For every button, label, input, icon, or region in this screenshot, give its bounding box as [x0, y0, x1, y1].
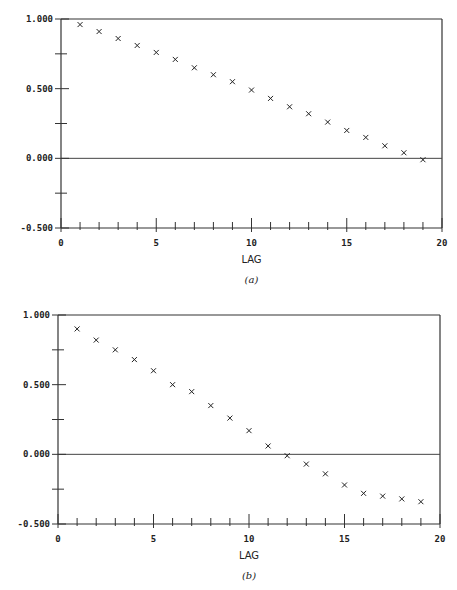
- data-point-x-marker: [344, 128, 349, 133]
- data-point-x-marker: [192, 65, 197, 70]
- data-point-x-marker: [154, 50, 159, 55]
- data-point-x-marker: [342, 482, 347, 487]
- data-point-x-marker: [189, 389, 194, 394]
- x-tick-label: 10: [244, 534, 255, 544]
- x-tick-label: 20: [437, 238, 448, 248]
- chart-canvas: 1.0000.5000.000-0.50005101520LAG(a) 1.00…: [0, 0, 457, 590]
- x-tick-label: 10: [246, 238, 257, 248]
- y-tick-label: 0.000: [23, 449, 50, 459]
- data-point-x-marker: [380, 494, 385, 499]
- data-point-x-marker: [247, 428, 252, 433]
- data-point-x-marker: [132, 357, 137, 362]
- acf-chart-b: 1.0000.5000.000-0.50005101520LAG(b): [17, 310, 445, 581]
- data-point-x-marker: [94, 338, 99, 343]
- data-point-x-marker: [401, 150, 406, 155]
- figure-caption: (b): [242, 570, 256, 581]
- y-tick-label: -0.500: [17, 519, 50, 529]
- data-point-x-marker: [173, 57, 178, 62]
- data-point-x-marker: [382, 143, 387, 148]
- data-point-x-marker: [151, 368, 156, 373]
- data-point-x-marker: [113, 347, 118, 352]
- x-tick-label: 15: [341, 238, 352, 248]
- data-point-x-marker: [75, 326, 80, 331]
- x-tick-label: 5: [154, 238, 159, 248]
- y-tick-label: 1.000: [26, 14, 53, 24]
- data-point-x-marker: [361, 491, 366, 496]
- data-point-x-marker: [78, 22, 83, 27]
- data-point-x-marker: [249, 88, 254, 93]
- data-point-x-marker: [325, 120, 330, 125]
- x-tick-label: 5: [151, 534, 156, 544]
- x-tick-label: 0: [58, 238, 63, 248]
- data-point-x-marker: [116, 36, 121, 41]
- data-point-x-marker: [268, 96, 273, 101]
- acf-chart-a: 1.0000.5000.000-0.50005101520LAG(a): [20, 14, 447, 285]
- x-tick-label: 15: [339, 534, 350, 544]
- data-point-x-marker: [230, 79, 235, 84]
- data-point-x-marker: [227, 416, 232, 421]
- data-point-x-marker: [304, 462, 309, 467]
- data-point-x-marker: [287, 104, 292, 109]
- data-point-x-marker: [306, 111, 311, 116]
- x-axis-label: LAG: [239, 550, 259, 561]
- x-tick-label: 0: [55, 534, 60, 544]
- data-point-x-marker: [418, 499, 423, 504]
- y-tick-label: 0.000: [26, 153, 53, 163]
- data-point-x-marker: [135, 43, 140, 48]
- data-point-x-marker: [170, 382, 175, 387]
- data-point-x-marker: [363, 135, 368, 140]
- data-point-x-marker: [211, 72, 216, 77]
- data-point-x-marker: [323, 471, 328, 476]
- y-tick-label: 1.000: [23, 310, 50, 320]
- data-point-x-marker: [208, 403, 213, 408]
- data-point-x-marker: [97, 29, 102, 34]
- y-tick-label: -0.500: [20, 223, 53, 233]
- x-axis-label: LAG: [241, 254, 261, 265]
- y-tick-label: 0.500: [23, 380, 50, 390]
- y-tick-label: 0.500: [26, 84, 53, 94]
- x-tick-label: 20: [435, 534, 446, 544]
- figure-caption: (a): [245, 274, 259, 285]
- data-point-x-marker: [399, 496, 404, 501]
- data-point-x-marker: [266, 443, 271, 448]
